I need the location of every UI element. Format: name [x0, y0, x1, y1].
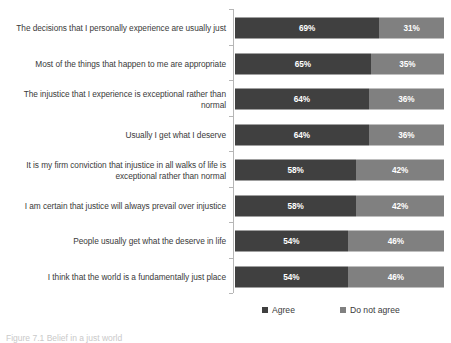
stacked-bar-chart: The decisions that I personally experien… — [0, 0, 451, 343]
legend-swatch-do-not-agree-icon — [340, 307, 346, 313]
chart-row: It is my firm conviction that injustice … — [0, 151, 451, 189]
bar-segment-agree[interactable]: 69% — [235, 18, 379, 39]
category-label: Most of the things that happen to me are… — [4, 58, 226, 69]
bar-segment-do-not-agree[interactable]: 42% — [356, 195, 444, 216]
legend-swatch-agree-icon — [262, 307, 268, 313]
stacked-bar[interactable]: 54%46% — [235, 266, 444, 287]
stacked-bar[interactable]: 69%31% — [235, 18, 444, 39]
category-label: Usually I get what I deserve — [4, 129, 226, 140]
chart-row: Usually I get what I deserve64%36% — [0, 116, 451, 154]
stacked-bar[interactable]: 64%36% — [235, 89, 444, 110]
legend-item-agree[interactable]: Agree — [262, 305, 295, 315]
bar-segment-agree[interactable]: 64% — [235, 89, 369, 110]
bar-segment-agree[interactable]: 54% — [235, 266, 348, 287]
chart-legend: Agree Do not agree — [0, 305, 451, 321]
bar-segment-do-not-agree[interactable]: 36% — [369, 124, 444, 145]
chart-row: The decisions that I personally experien… — [0, 9, 451, 47]
chart-row: I think that the world is a fundamentall… — [0, 258, 451, 296]
bar-segment-agree[interactable]: 64% — [235, 124, 369, 145]
bar-segment-agree[interactable]: 58% — [235, 160, 356, 181]
stacked-bar[interactable]: 64%36% — [235, 124, 444, 145]
chart-row: Most of the things that happen to me are… — [0, 45, 451, 83]
legend-label-agree: Agree — [272, 305, 295, 315]
stacked-bar[interactable]: 58%42% — [235, 195, 444, 216]
category-label: I am certain that justice will always pr… — [4, 200, 226, 211]
legend-item-do-not-agree[interactable]: Do not agree — [340, 305, 400, 315]
bar-segment-do-not-agree[interactable]: 42% — [356, 160, 444, 181]
figure-caption: Figure 7.1 Belief in a just world — [6, 333, 286, 343]
category-label: The decisions that I personally experien… — [4, 23, 226, 34]
category-label: I think that the world is a fundamentall… — [4, 271, 226, 282]
bar-segment-do-not-agree[interactable]: 46% — [348, 266, 444, 287]
plot-area: The decisions that I personally experien… — [0, 0, 451, 295]
bar-segment-do-not-agree[interactable]: 36% — [369, 89, 444, 110]
axis-tick — [229, 293, 233, 294]
bar-segment-do-not-agree[interactable]: 46% — [348, 231, 444, 252]
category-label: People usually get what the deserve in l… — [4, 236, 226, 247]
bar-segment-do-not-agree[interactable]: 31% — [379, 18, 444, 39]
bar-segment-do-not-agree[interactable]: 35% — [371, 53, 444, 74]
bar-segment-agree[interactable]: 58% — [235, 195, 356, 216]
bar-segment-agree[interactable]: 65% — [235, 53, 371, 74]
stacked-bar[interactable]: 54%46% — [235, 231, 444, 252]
bar-segment-agree[interactable]: 54% — [235, 231, 348, 252]
category-label: It is my firm conviction that injustice … — [4, 160, 226, 181]
legend-label-do-not-agree: Do not agree — [350, 305, 400, 315]
chart-row: I am certain that justice will always pr… — [0, 187, 451, 225]
chart-row: The injustice that I experience is excep… — [0, 80, 451, 118]
stacked-bar[interactable]: 58%42% — [235, 160, 444, 181]
stacked-bar[interactable]: 65%35% — [235, 53, 444, 74]
category-label: The injustice that I experience is excep… — [4, 89, 226, 110]
chart-row: People usually get what the deserve in l… — [0, 222, 451, 260]
